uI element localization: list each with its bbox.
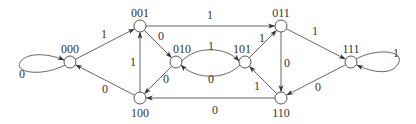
state-node-011: 011 xyxy=(272,6,290,32)
state-label: 111 xyxy=(342,42,359,56)
state-label: 010 xyxy=(173,42,191,56)
state-circle-icon xyxy=(134,92,146,104)
edge-label-000-to-001: 1 xyxy=(101,27,107,41)
edge-label-001-to-010: 0 xyxy=(158,29,164,43)
edge-label-101-to-011: 1 xyxy=(259,31,265,45)
edge-label-000-to-000: 0 xyxy=(19,67,25,81)
state-circle-icon xyxy=(345,56,357,68)
state-label: 100 xyxy=(131,106,149,120)
state-label: 001 xyxy=(131,6,149,20)
state-circle-icon xyxy=(64,56,76,68)
state-node-101: 101 xyxy=(233,42,251,68)
state-label: 110 xyxy=(272,106,290,120)
state-circle-icon xyxy=(275,20,287,32)
edge-label-100-to-000: 0 xyxy=(102,82,108,96)
edge-label-111-to-110: 0 xyxy=(315,80,321,94)
state-node-001: 001 xyxy=(131,6,149,32)
state-circle-icon xyxy=(134,20,146,32)
state-circle-icon xyxy=(275,92,287,104)
edge-label-010-to-101: 1 xyxy=(208,39,214,53)
state-node-110: 110 xyxy=(272,92,290,120)
state-node-100: 100 xyxy=(131,92,149,120)
edge-label-010-to-100: 0 xyxy=(163,72,169,86)
edge-label-011-to-111: 1 xyxy=(312,24,318,38)
state-diagram: 0100110101100101 00000101010010101111011… xyxy=(0,0,416,124)
edge-label-100-to-001: 1 xyxy=(130,55,136,69)
state-circle-icon xyxy=(239,56,251,68)
edge-label-110-to-100: 0 xyxy=(212,103,218,117)
edge-label-111-to-111: 1 xyxy=(393,46,399,60)
state-node-010: 010 xyxy=(170,42,191,68)
state-node-111: 111 xyxy=(342,42,359,68)
edge-label-101-to-010: 0 xyxy=(208,72,214,86)
state-node-000: 000 xyxy=(61,42,79,68)
state-label: 000 xyxy=(61,42,79,56)
edge-000-to-000 xyxy=(19,55,65,73)
state-circle-icon xyxy=(170,56,182,68)
state-label: 101 xyxy=(233,42,251,56)
edge-label-001-to-011: 1 xyxy=(207,8,213,22)
state-label: 011 xyxy=(272,6,290,20)
edge-label-011-to-110: 0 xyxy=(284,56,290,70)
edge-label-110-to-101: 1 xyxy=(254,79,260,93)
